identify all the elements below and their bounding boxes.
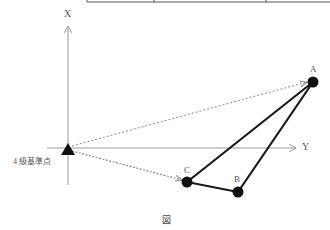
point-c-label: C [184,165,190,175]
survey-diagram [0,0,330,230]
point-a-label: A [310,64,317,74]
point-b-marker [233,187,244,198]
figure-caption: 図 [162,213,171,226]
traverse-polygon [187,82,313,192]
x-axis-label: X [64,8,71,19]
dashed-line-to-c [72,151,182,180]
point-c-marker [182,177,193,188]
table-fragment [87,0,330,2]
point-b-label: B [234,174,240,184]
point-a-marker [308,77,319,88]
reference-point-label: 4 級基準点 [13,155,51,166]
reference-point-triangle-icon [61,143,75,155]
y-axis-label: Y [302,141,309,152]
